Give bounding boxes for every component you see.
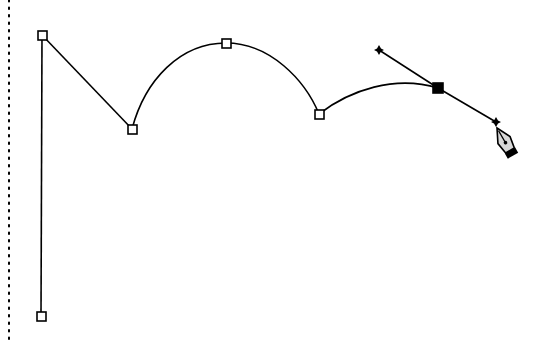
anchor-point[interactable] [37, 312, 46, 321]
path-segment-line[interactable] [42, 35, 132, 129]
pen-tool-cursor-icon [491, 125, 519, 160]
drawing-canvas[interactable] [0, 0, 541, 344]
handle-line [379, 50, 438, 88]
anchor-point[interactable] [128, 125, 137, 134]
path-segment-curve[interactable] [226, 43, 319, 114]
direction-point-icon[interactable] [374, 45, 384, 55]
path-segment-curve[interactable] [132, 43, 226, 129]
direction-point-icon[interactable] [491, 117, 501, 127]
selected-anchor-point[interactable] [433, 83, 443, 93]
anchor-point[interactable] [38, 31, 47, 40]
anchor-point[interactable] [315, 110, 324, 119]
handle-line [438, 88, 496, 122]
bezier-path[interactable] [41, 35, 438, 317]
anchor-points [37, 31, 443, 321]
path-segment-line[interactable] [41, 35, 42, 317]
path-segment-curve[interactable] [319, 83, 438, 114]
anchor-point[interactable] [222, 39, 231, 48]
